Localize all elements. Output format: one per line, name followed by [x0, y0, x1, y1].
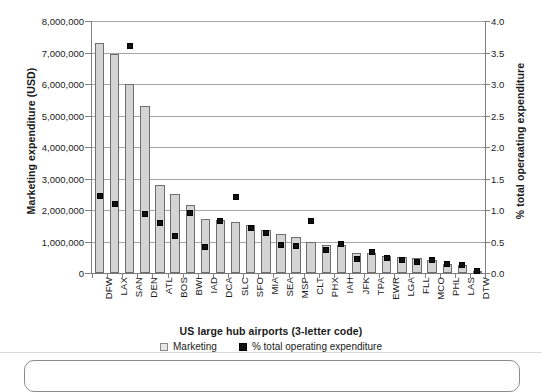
x-tick-label-clt: CLT — [314, 277, 325, 317]
y-axis-left-tick-label: 3,000,000 — [42, 173, 84, 184]
legend-swatch-square-icon — [160, 343, 168, 351]
x-axis-title: US large hub airports (3-letter code) — [0, 325, 542, 337]
y-axis-left-tick-label: 2,000,000 — [42, 205, 84, 216]
x-tick-label-msp: MSP — [299, 277, 310, 317]
y-axis-left-tick — [85, 53, 91, 54]
x-tick-label-iah: IAH — [344, 277, 355, 317]
y-axis-left-tick-label: 7,000,000 — [42, 47, 84, 58]
y-axis-right-tick-label: 0.5 — [491, 236, 504, 247]
y-axis-left-tick-label: 5,000,000 — [42, 110, 84, 121]
x-tick-label-sea: SEA — [284, 277, 295, 317]
x-tick-label-iad: IAD — [208, 277, 219, 317]
x-tick-label-phx: PHX — [329, 277, 340, 317]
x-tick-label-lga: LGA — [405, 277, 416, 317]
y-axis-left-tick-label: 0 — [79, 268, 84, 279]
x-tick-label-las: LAS — [465, 277, 476, 317]
y-axis-left-tick — [85, 116, 91, 117]
y-axis-right-tick-label: 3.0 — [491, 79, 504, 90]
y-axis-right-tick-label: 0.0 — [491, 268, 504, 279]
legend-label-pct-total-operating-expenditure: % total operating expenditure — [252, 341, 382, 352]
x-tick-label-atl: ATL — [163, 277, 174, 317]
y-axis-right-tick — [484, 273, 490, 274]
y-axis-left-tick — [85, 84, 91, 85]
y-axis-right-tick — [484, 210, 490, 211]
x-tick-label-lax: LAX — [118, 277, 129, 317]
x-tick-label-mco: MCO — [435, 277, 446, 317]
y-axis-right-tick — [484, 242, 490, 243]
y-axis-right-tick — [484, 21, 490, 22]
x-tick-label-sfo: SFO — [254, 277, 265, 317]
y-axis-right-tick-label: 4.0 — [491, 16, 504, 27]
y-axis-right-tick — [484, 116, 490, 117]
x-axis-tick-labels: DFWLAXSANDENATLBOSBWIIADDCASLCSFOMIASEAM… — [91, 277, 484, 321]
y-axis-right-tick-label: 3.5 — [491, 47, 504, 58]
legend-swatch-filled-square-icon — [239, 343, 247, 351]
x-tick-label-dfw: DFW — [103, 277, 114, 317]
y-axis-right-tick-label: 1.0 — [491, 205, 504, 216]
y-axis-left-tick-label: 8,000,000 — [42, 16, 84, 27]
x-tick-label-phl: PHL — [450, 277, 461, 317]
x-tick-label-tpa: TPA — [375, 277, 386, 317]
y-axis-left-tick — [85, 273, 91, 274]
y-axis-right-tick-label: 2.0 — [491, 142, 504, 153]
x-tick-label-bwi: BWI — [193, 277, 204, 317]
x-tick-label-dtw: DTW — [480, 277, 491, 317]
y-axis-left-tick — [85, 242, 91, 243]
caption-box — [24, 360, 520, 392]
chart-legend: Marketing % total operating expenditure — [0, 341, 542, 352]
y-axis-left-tick — [85, 21, 91, 22]
x-tick-label-mia: MIA — [269, 277, 280, 317]
y-axis-left-tick-label: 1,000,000 — [42, 236, 84, 247]
y-axis-right-tick — [484, 147, 490, 148]
y-axis-left-tick — [85, 210, 91, 211]
y-axis-left-tick-label: 6,000,000 — [42, 79, 84, 90]
y-axis-right-tick-label: 2.5 — [491, 110, 504, 121]
x-tick-label-ewr: EWR — [390, 277, 401, 317]
x-tick-label-jfk: JFK — [360, 277, 371, 317]
y-axis-right-tick — [484, 179, 490, 180]
x-tick-label-slc: SLC — [239, 277, 250, 317]
legend-item-marketing: Marketing — [160, 341, 217, 352]
x-tick-label-den: DEN — [148, 277, 159, 317]
y-axis-left-tick — [85, 179, 91, 180]
x-tick-label-san: SAN — [133, 277, 144, 317]
legend-item-pct-total-operating-expenditure: % total operating expenditure — [239, 341, 382, 352]
legend-label-marketing: Marketing — [173, 341, 217, 352]
y-axis-right-tick — [484, 84, 490, 85]
y-axis-right-tick-label: 1.5 — [491, 173, 504, 184]
y-axis-left-tick — [85, 147, 91, 148]
y-axis-right-tick — [484, 53, 490, 54]
x-tick-label-fll: FLL — [420, 277, 431, 317]
y-axis-left-tick-label: 4,000,000 — [42, 142, 84, 153]
x-tick-label-bos: BOS — [178, 277, 189, 317]
divider — [0, 352, 542, 353]
x-tick-label-dca: DCA — [223, 277, 234, 317]
